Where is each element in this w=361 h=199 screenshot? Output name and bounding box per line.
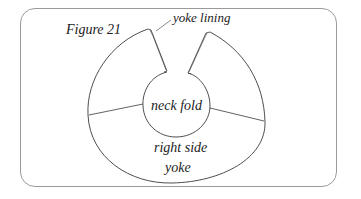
label-neck-fold: neck fold <box>151 99 202 113</box>
right-slit <box>188 32 210 74</box>
figure-title: Figure 21 <box>66 23 121 37</box>
right-slit-inner <box>189 33 207 72</box>
label-right-side: right side <box>154 141 207 155</box>
left-slit-inner <box>150 30 166 70</box>
label-yoke-lining: yoke lining <box>173 11 230 24</box>
right-seam <box>210 108 264 121</box>
label-yoke: yoke <box>165 161 191 175</box>
yoke-lining-leader <box>156 20 171 31</box>
left-seam <box>89 104 143 115</box>
